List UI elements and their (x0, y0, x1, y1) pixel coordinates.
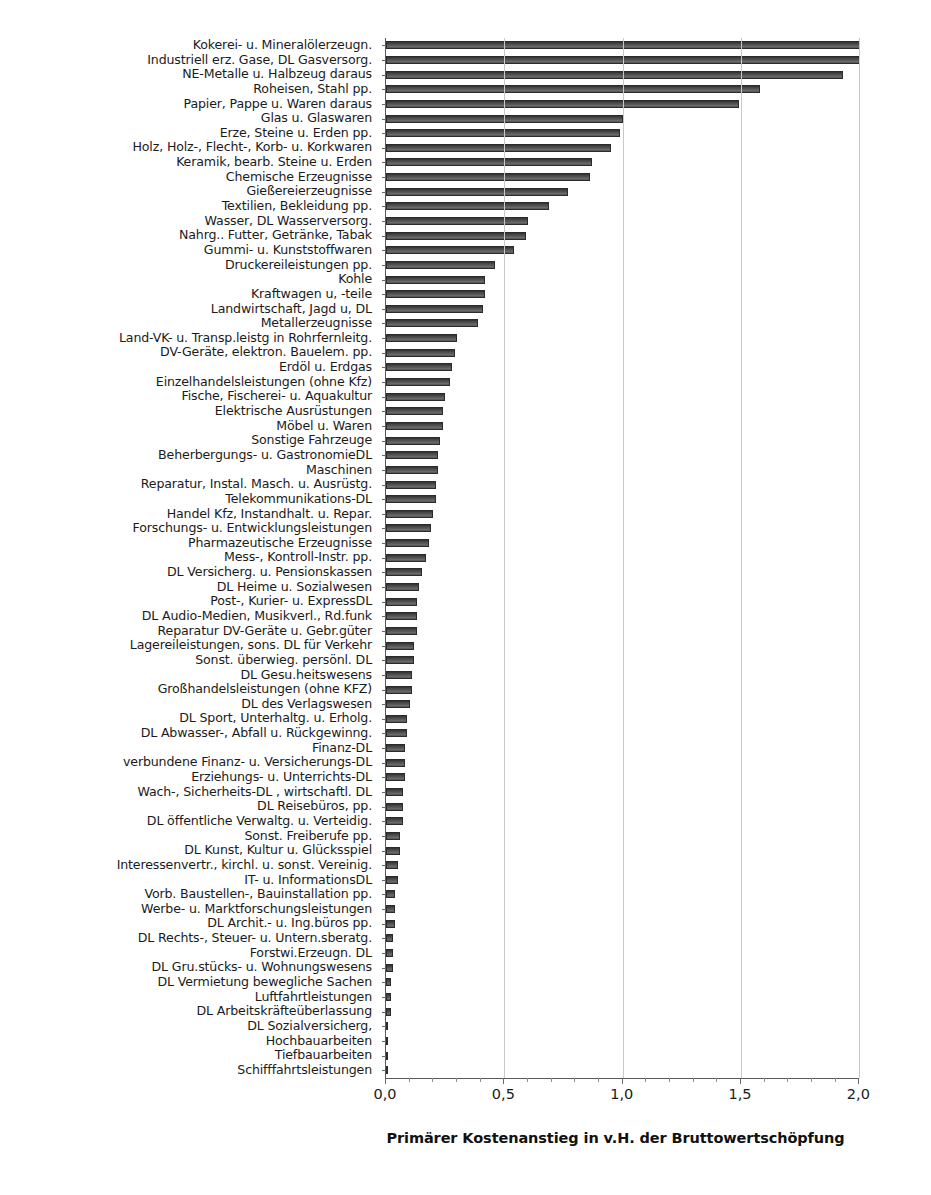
y-tick (382, 1012, 386, 1013)
y-tick (382, 75, 386, 76)
bar (386, 451, 438, 459)
bar (386, 129, 620, 137)
gridline-2 (859, 38, 860, 1078)
y-tick (382, 792, 386, 793)
y-tick (382, 236, 386, 237)
y-tick (382, 616, 386, 617)
category-label: Erdöl u. Erdgas (0, 360, 378, 375)
bar (386, 656, 414, 664)
bar (386, 934, 393, 942)
bar (386, 1022, 388, 1030)
gridline-0-5 (504, 38, 505, 1078)
x-tick-minor (693, 1078, 694, 1082)
bar (386, 949, 393, 957)
y-tick (382, 865, 386, 866)
x-tick-minor (669, 1078, 670, 1082)
y-tick (382, 485, 386, 486)
bar (386, 686, 412, 694)
y-tick (382, 558, 386, 559)
y-tick (382, 250, 386, 251)
y-tick (382, 192, 386, 193)
x-tick-minor (598, 1078, 599, 1082)
bar (386, 1037, 388, 1045)
bar (386, 437, 440, 445)
bar (386, 466, 438, 474)
bar (386, 554, 426, 562)
bar (386, 510, 433, 518)
y-tick (382, 851, 386, 852)
bar (386, 363, 452, 371)
y-tick (382, 646, 386, 647)
x-tick-label: 1,0 (610, 1086, 633, 1102)
x-axis-title-text: Primärer Kostenanstieg in v.H. der Brutt… (86, 1130, 844, 1146)
y-tick (382, 411, 386, 412)
bar (386, 817, 403, 825)
y-tick (382, 660, 386, 661)
bar (386, 642, 414, 650)
category-label: DL Kunst, Kultur u. Glücksspiel (0, 843, 378, 858)
category-label: DL Versicherg. u. Pensionskassen (0, 565, 378, 580)
bar (386, 305, 483, 313)
bar (386, 144, 611, 152)
bar (386, 744, 405, 752)
category-label: Beherbergungs- u. GastronomieDL (0, 448, 378, 463)
y-tick (382, 982, 386, 983)
category-label: Elektrische Ausrüstungen (0, 404, 378, 419)
category-label: DL des Verlagswesen (0, 697, 378, 712)
x-tick-minor (645, 1078, 646, 1082)
bar (386, 85, 760, 93)
y-tick (382, 924, 386, 925)
category-label: NE-Metalle u. Halbzeug daraus (0, 67, 378, 82)
y-tick (382, 748, 386, 749)
bar (386, 495, 436, 503)
bar (386, 583, 419, 591)
x-tick-minor (574, 1078, 575, 1082)
category-label: Landwirtschaft, Jagd u, DL (0, 302, 378, 317)
x-tick-minor (551, 1078, 552, 1082)
x-tick-label: 0,5 (492, 1086, 515, 1102)
category-label: Keramik, bearb. Steine u. Erden (0, 155, 378, 170)
y-tick (382, 719, 386, 720)
y-tick (382, 148, 386, 149)
category-label: Interessenvertr., kirchl. u. sonst. Vere… (0, 858, 378, 873)
y-tick (382, 162, 386, 163)
category-label: Kraftwagen u, -teile (0, 287, 378, 302)
y-tick (382, 675, 386, 676)
y-tick (382, 294, 386, 295)
x-tick-major (858, 1078, 859, 1084)
category-label: DL Rechts-, Steuer- u. Untern.sberatg. (0, 931, 378, 946)
y-tick (382, 206, 386, 207)
y-tick (382, 880, 386, 881)
y-tick (382, 89, 386, 90)
bar (386, 173, 590, 181)
bar (386, 393, 445, 401)
y-tick (382, 441, 386, 442)
bar (386, 832, 400, 840)
category-label: Hochbauarbeiten (0, 1034, 378, 1049)
category-label: Chemische Erzeugnisse (0, 170, 378, 185)
category-label: Luftfahrtleistungen (0, 990, 378, 1005)
category-label: DL öffentliche Verwaltg. u. Verteidig. (0, 814, 378, 829)
category-label: Post-, Kurier- u. ExpressDL (0, 594, 378, 609)
bar (386, 100, 739, 108)
bar (386, 524, 431, 532)
category-label: DL Sozialversicherg, (0, 1019, 378, 1034)
category-label: Einzelhandelsleistungen (ohne Kfz) (0, 375, 378, 390)
category-label: Pharmazeutische Erzeugnisse (0, 536, 378, 551)
category-label: Sonstige Fahrzeuge (0, 433, 378, 448)
bar (386, 188, 568, 196)
bar (386, 671, 412, 679)
x-tick-minor (432, 1078, 433, 1082)
x-tick-minor (716, 1078, 717, 1082)
category-label: DL Archit.- u. Ing.büros pp. (0, 916, 378, 931)
plot-area (385, 38, 860, 1078)
y-tick (382, 426, 386, 427)
category-label: Wach-, Sicherheits-DL , wirtschaftl. DL (0, 785, 378, 800)
category-label: Vorb. Baustellen-, Bauinstallation pp. (0, 887, 378, 902)
category-axis-labels: Kokerei- u. Mineralölerzeugn.Industriell… (0, 38, 378, 1078)
y-tick (382, 133, 386, 134)
y-tick (382, 60, 386, 61)
category-label: Erziehungs- u. Unterrichts-DL (0, 770, 378, 785)
y-tick (382, 968, 386, 969)
category-label: verbundene Finanz- u. Versicherungs-DL (0, 755, 378, 770)
